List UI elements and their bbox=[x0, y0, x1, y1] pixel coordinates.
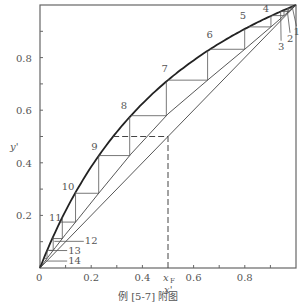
stage-label-1: 1 bbox=[293, 26, 299, 37]
y-axis-label: y' bbox=[9, 141, 18, 152]
chart-svg: 00.20.40.60.80.20.40.60.8xF 123456789101… bbox=[0, 0, 301, 303]
stage-label-11: 11 bbox=[49, 212, 62, 223]
stage-label-3: 3 bbox=[278, 41, 284, 52]
stage-label-6: 6 bbox=[206, 29, 212, 40]
stage-label-12: 12 bbox=[85, 235, 98, 246]
stage-steps bbox=[44, 6, 294, 259]
stage-label-9: 9 bbox=[91, 141, 97, 152]
stage-label-10: 10 bbox=[62, 181, 75, 192]
stage-label-7: 7 bbox=[162, 63, 168, 74]
y-tick-label: 0.2 bbox=[16, 210, 32, 221]
stage-label-8: 8 bbox=[121, 100, 127, 111]
x-tick-label: 0 bbox=[36, 272, 42, 283]
x-tick-label: 0.4 bbox=[134, 272, 150, 283]
axes: 00.20.40.60.80.20.40.60.8xF bbox=[16, 5, 296, 285]
stage-label-13: 13 bbox=[68, 245, 81, 256]
x-tick-label: 0.2 bbox=[83, 272, 99, 283]
feed-label: x bbox=[163, 272, 169, 283]
figure-caption: 例 [5-7] 附图 bbox=[118, 290, 178, 302]
stage-label-2: 2 bbox=[287, 33, 293, 44]
plot-lines bbox=[40, 5, 296, 268]
stage-label-4: 4 bbox=[263, 3, 269, 14]
y-tick-label: 0.6 bbox=[16, 105, 32, 116]
stage-label-5: 5 bbox=[240, 10, 246, 21]
stage-label-14: 14 bbox=[68, 255, 81, 266]
x-tick-label: 0.6 bbox=[186, 272, 202, 283]
y-tick-label: 0.8 bbox=[16, 53, 32, 64]
x-tick-label: 0.8 bbox=[237, 272, 253, 283]
mccabe-thiele-chart: 00.20.40.60.80.20.40.60.8xF 123456789101… bbox=[0, 0, 301, 303]
y-tick-label: 0.4 bbox=[16, 158, 32, 169]
stage-labels: 1234567891011121314 bbox=[46, 3, 300, 266]
